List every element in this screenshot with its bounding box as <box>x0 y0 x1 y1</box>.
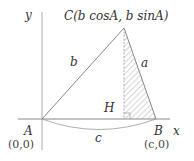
point-B-label: B <box>153 124 163 138</box>
point-C-label: C(b cosA, b sinA) <box>64 9 169 23</box>
side-c-brace <box>42 119 156 130</box>
side-c-label: c <box>95 131 102 145</box>
point-B-coord: (c,0) <box>144 138 169 151</box>
point-H-label: H <box>103 101 115 115</box>
point-A-label: A <box>23 124 33 138</box>
side-a-label: a <box>141 56 148 70</box>
y-axis-label: y <box>24 8 32 22</box>
x-axis-label: x <box>173 124 180 138</box>
side-b-label: b <box>70 55 78 69</box>
point-A-coord: (0,0) <box>8 138 34 151</box>
triangle-diagram: y C(b cosA, b sinA) b a H A (0,0) c B x … <box>0 0 194 161</box>
